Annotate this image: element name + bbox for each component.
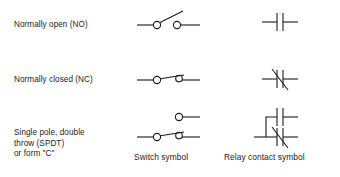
switch-relay-symbol-diagram: Normally open (NO) Normally closed (NC) … [0,0,340,177]
switch-symbol-normally-open [137,11,200,29]
relay-contact-symbol-normally-open [262,13,298,31]
relay-contact-symbol-spdt [254,108,298,148]
relay-contact-symbol-normally-closed [262,69,298,90]
switch-symbol-spdt [137,113,200,140]
switch-symbol-normally-closed [137,75,200,84]
symbol-artwork [0,0,340,177]
